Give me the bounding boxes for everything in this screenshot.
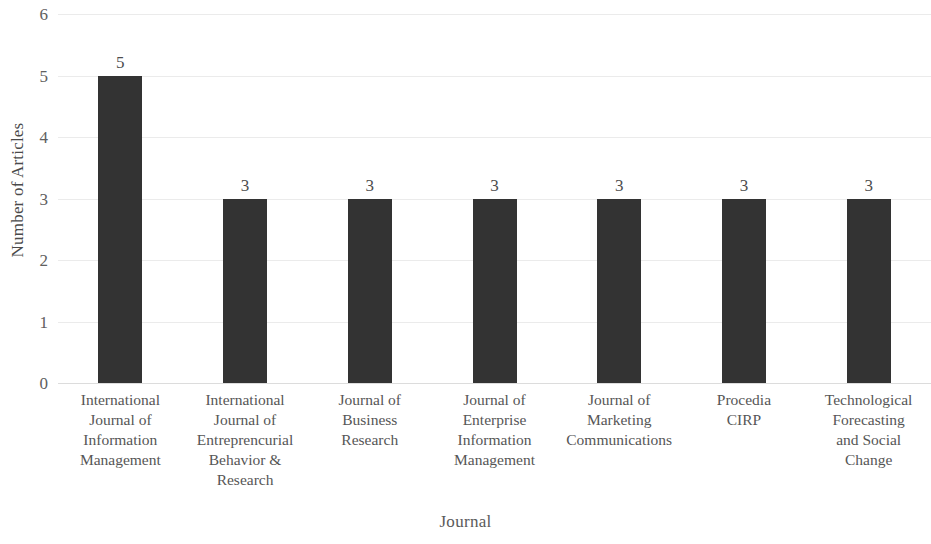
x-category-label-line: Journal of — [432, 390, 557, 410]
bar-value-label: 5 — [76, 54, 164, 71]
y-tick-label-3: 3 — [18, 190, 48, 207]
x-category-label: InternationalJournal ofInformationManage… — [58, 390, 183, 470]
x-category-label-line: Technological — [806, 390, 931, 410]
x-category-label-line: Information — [58, 430, 183, 450]
bar[interactable] — [473, 199, 517, 384]
y-tick-label-0: 0 — [18, 375, 48, 392]
bar[interactable] — [348, 199, 392, 384]
y-tick-label-4: 4 — [18, 129, 48, 146]
bar-value-label: 3 — [451, 177, 539, 194]
bar[interactable] — [722, 199, 766, 384]
bar[interactable] — [847, 199, 891, 384]
y-tick-label-5: 5 — [18, 67, 48, 84]
y-tick-label-1: 1 — [18, 313, 48, 330]
x-category-label-line: Communications — [557, 430, 682, 450]
bar-group[interactable]: 3 — [847, 14, 891, 383]
x-category-label-line: Entreprencurial — [183, 430, 308, 450]
x-category-label-line: Management — [432, 450, 557, 470]
bar-value-label: 3 — [575, 177, 663, 194]
x-category-label-line: Change — [806, 450, 931, 470]
bar-group[interactable]: 3 — [348, 14, 392, 383]
bar-group[interactable]: 3 — [597, 14, 641, 383]
bar-group[interactable]: 3 — [722, 14, 766, 383]
x-category-label-line: Business — [307, 410, 432, 430]
x-category-label-line: Forecasting — [806, 410, 931, 430]
x-category-label-line: Procedia — [682, 390, 807, 410]
x-category-label-line: Journal of — [183, 410, 308, 430]
x-category-label: Journal ofMarketingCommunications — [557, 390, 682, 450]
bars-layer: 5333333 — [58, 14, 931, 383]
x-category-label-line: Information — [432, 430, 557, 450]
x-category-label-line: Journal of — [307, 390, 432, 410]
bar-group[interactable]: 3 — [473, 14, 517, 383]
bar-group[interactable]: 3 — [223, 14, 267, 383]
bar-chart-figure: Number of Articles 0123456 5333333 Inter… — [0, 0, 931, 544]
y-tick-label-6: 6 — [18, 6, 48, 23]
y-tick-label-2: 2 — [18, 252, 48, 269]
bar-value-label: 3 — [700, 177, 788, 194]
bar-value-label: 3 — [201, 177, 289, 194]
x-category-label-line: Journal of — [557, 390, 682, 410]
x-category-label-line: Enterprise — [432, 410, 557, 430]
x-category-label-line: Journal of — [58, 410, 183, 430]
bar-value-label: 3 — [825, 177, 913, 194]
x-category-label-line: Research — [183, 470, 308, 490]
x-category-label-line: and Social — [806, 430, 931, 450]
x-category-label-line: CIRP — [682, 410, 807, 430]
x-axis-title: Journal — [0, 512, 931, 532]
x-category-label-line: Management — [58, 450, 183, 470]
x-category-label-line: Marketing — [557, 410, 682, 430]
bar[interactable] — [597, 199, 641, 384]
x-category-label-line: International — [183, 390, 308, 410]
x-axis-category-labels: InternationalJournal ofInformationManage… — [58, 390, 931, 500]
x-category-label-line: Behavior & — [183, 450, 308, 470]
x-category-label: InternationalJournal ofEntreprencurialBe… — [183, 390, 308, 490]
x-category-label-line: Research — [307, 430, 432, 450]
x-category-label: ProcediaCIRP — [682, 390, 807, 430]
gridline-0 — [58, 383, 931, 384]
x-category-label: TechnologicalForecastingand SocialChange — [806, 390, 931, 470]
x-category-label: Journal ofEnterpriseInformationManagemen… — [432, 390, 557, 470]
x-category-label: Journal ofBusinessResearch — [307, 390, 432, 450]
plot-area: 5333333 — [58, 14, 931, 383]
bar[interactable] — [223, 199, 267, 384]
bar-value-label: 3 — [326, 177, 414, 194]
bar-group[interactable]: 5 — [98, 14, 142, 383]
bar[interactable] — [98, 76, 142, 384]
x-category-label-line: International — [58, 390, 183, 410]
